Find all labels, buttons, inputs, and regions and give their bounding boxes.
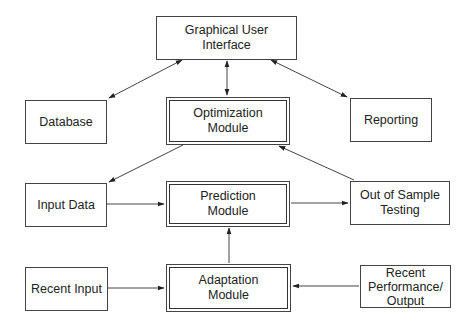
node-adaptation-module: Adaptation Module: [166, 264, 291, 312]
node-recent-input: Recent Input: [25, 267, 108, 311]
node-reporting: Reporting: [350, 98, 432, 142]
edge-outofsample-optimization: [279, 146, 354, 180]
node-label: Out of Sample Testing: [360, 188, 440, 218]
edge-gui-reporting: [271, 60, 347, 97]
node-label: Recent Input: [31, 282, 102, 297]
edge-gui-database: [109, 60, 182, 98]
node-input-data: Input Data: [25, 183, 107, 227]
node-label: Optimization Module: [193, 106, 262, 136]
node-optimization-module: Optimization Module: [166, 97, 290, 145]
edge-optimization-inputdata: [109, 145, 183, 182]
node-label: Prediction Module: [200, 189, 256, 219]
node-out-of-sample-testing: Out of Sample Testing: [350, 181, 450, 225]
node-label: Database: [39, 115, 93, 130]
node-label: Recent Performance/ Output: [368, 266, 443, 308]
node-label: Reporting: [364, 113, 418, 128]
node-recent-performance-output: Recent Performance/ Output: [360, 265, 451, 308]
node-database: Database: [25, 100, 107, 144]
node-prediction-module: Prediction Module: [166, 181, 290, 227]
node-label: Input Data: [37, 198, 95, 213]
node-label: Graphical User Interface: [185, 23, 268, 53]
node-label: Adaptation Module: [199, 273, 259, 303]
node-gui: Graphical User Interface: [156, 16, 297, 60]
